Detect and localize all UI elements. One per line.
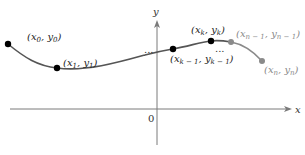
point-xnm1-ynm1 (228, 39, 234, 45)
ellipsis-left: ... (144, 44, 154, 55)
label-xnm1-ynm1: (xn − 1, yn − 1) (236, 28, 300, 41)
ellipses: ... ... (144, 43, 225, 55)
curve-light-segment (231, 42, 262, 61)
origin-label: 0 (148, 113, 154, 124)
ellipsis-right: ... (215, 43, 225, 54)
point-xk-yk (208, 38, 214, 44)
x-axis-label: x (295, 104, 301, 115)
axes: x y 0 (10, 6, 301, 145)
label-xn-yn: (xn, yn) (264, 64, 299, 77)
label-xkm1-ykm1: (xk − 1, yk − 1) (170, 53, 234, 66)
y-axis-label: y (152, 6, 159, 17)
point-x1-y1 (54, 65, 60, 71)
label-x0-y0: (x0, y0) (27, 31, 62, 44)
polygonal-path-diagram: x y 0 (x0, y0) (x1, y1) (xk − 1, yk − 1)… (0, 0, 305, 155)
label-xk-yk: (xk, yk) (191, 24, 225, 37)
point-x0-y0 (5, 41, 11, 47)
point-xkm1-ykm1 (170, 46, 176, 52)
